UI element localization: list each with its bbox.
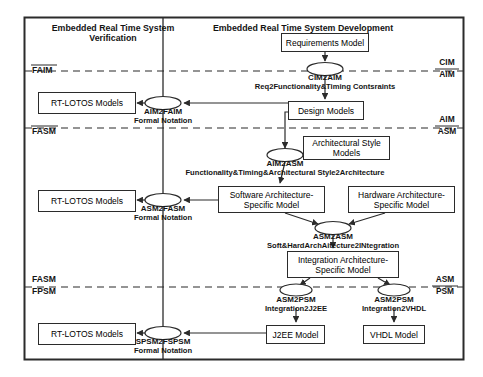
transform-sublabel-spsm2fspsm: Formal Notation: [134, 347, 192, 356]
side-label-psm: PSM: [432, 287, 458, 296]
node-software-architecture-specific-model[interactable]: Software Architecture- Specific Model: [218, 186, 325, 213]
node-hardware-architecture-specific-model[interactable]: Hardware Architecture- Specific Model: [348, 186, 455, 213]
node-rt-lotos-models-asm[interactable]: RT-LOTOS Models: [38, 190, 136, 212]
transform-sublabel-aim2faim: Formal Notation: [134, 117, 192, 126]
node-architectural-style-models[interactable]: Architectural Style Models: [303, 136, 390, 160]
node-vhdl-model[interactable]: VHDL Model: [363, 325, 425, 344]
diagram-canvas: Embedded Real Time System Verification E…: [0, 0, 483, 377]
section-title-verification: Embedded Real Time System Verification: [52, 24, 175, 44]
transform-sublabel-asm2fasm: Formal Notation: [134, 214, 192, 223]
node-j2ee-model[interactable]: J2EE Model: [266, 325, 325, 344]
node-requirements-model[interactable]: Requirements Model: [281, 33, 369, 52]
transform-sublabel-asm2psm-j2ee: Integration2J2EE: [265, 305, 327, 314]
node-integration-architecture-specific-model[interactable]: Integration Architecture- Specific Model: [287, 251, 399, 278]
zone-label-fasm: FASM: [32, 127, 56, 137]
side-label-asm-lower: ASM: [435, 127, 459, 136]
transform-sublabel-asm2psm-vhdl: Integration2VHDL: [362, 305, 426, 314]
edge-hwarch-to-asm2asm: [349, 213, 385, 224]
transform-sublabel-asm2asm: Soft&HardArchAitecture2INtegration: [267, 242, 399, 251]
transform-sublabel-aim2asm: Functionality&Timing&Architectural Style…: [185, 169, 384, 178]
zone-label-fpsm: FPSM: [32, 287, 56, 297]
node-rt-lotos-models-aim[interactable]: RT-LOTOS Models: [38, 92, 136, 114]
node-design-models[interactable]: Design Models: [288, 101, 364, 120]
side-label-aim: AIM: [435, 115, 459, 124]
side-label-asm: ASM: [432, 275, 458, 284]
transform-sublabel-cim2aim: Req2Functionality&Timing Contsraints: [255, 83, 395, 92]
zone-label-fasm-lower: FASM: [32, 275, 56, 285]
zone-label-faim: FAIM: [32, 66, 53, 76]
side-label-cim: CIM: [435, 58, 459, 67]
side-label-aim-lower: AIM: [435, 70, 459, 79]
node-rt-lotos-models-psm[interactable]: RT-LOTOS Models: [38, 323, 136, 345]
edge-swarch-to-asm2asm: [285, 213, 318, 224]
